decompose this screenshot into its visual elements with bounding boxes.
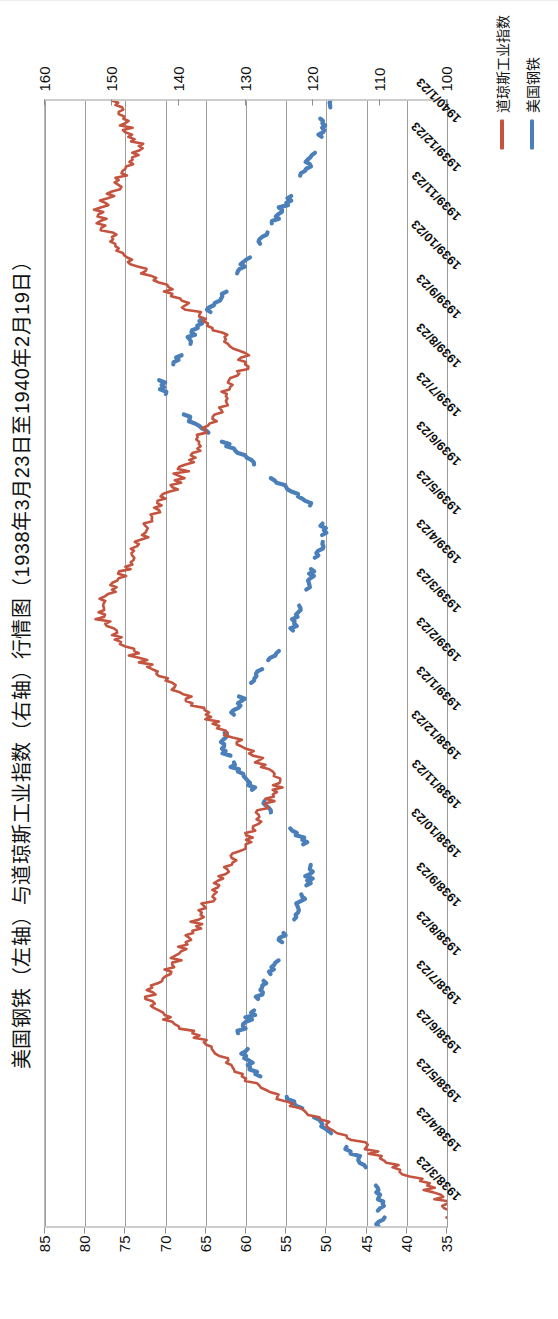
legend-item-us-steel: 美国钢铁 — [522, 14, 542, 149]
series-segment-us-steel-17 — [251, 669, 262, 683]
series-segment-us-steel-31 — [259, 232, 268, 243]
series-segment-us-steel-2 — [345, 1146, 365, 1166]
y-tick-left-85: 85 — [36, 1235, 53, 1252]
series-segment-us-steel-22 — [320, 523, 326, 534]
series-segment-us-steel-19 — [290, 605, 300, 630]
y-tickmark-left-75 — [124, 1227, 125, 1233]
series-segment-us-steel-28 — [188, 318, 203, 343]
series-segment-us-steel-10 — [294, 894, 305, 919]
y-tickmark-left-40 — [406, 1227, 407, 1233]
series-line-dow-jones — [94, 100, 447, 1226]
y-tick-right-140: 140 — [170, 66, 187, 91]
y-tickmark-right-110 — [379, 99, 380, 105]
legend-item-dow-jones: 道琼斯工业指数 — [492, 14, 512, 149]
y-tickmark-right-160 — [44, 99, 45, 105]
series-segment-us-steel-30 — [237, 257, 250, 273]
series-segment-us-steel-24 — [222, 441, 254, 464]
y-tick-right-100: 100 — [438, 66, 455, 91]
series-segment-us-steel-35 — [330, 100, 331, 107]
series-segment-us-steel-26 — [159, 380, 166, 394]
series-segment-us-steel-9 — [279, 933, 286, 942]
y-tick-right-110: 110 — [371, 67, 388, 91]
series-segment-us-steel-14 — [231, 762, 256, 789]
series-segment-us-steel-8 — [269, 960, 279, 974]
series-segment-us-steel-0 — [376, 1217, 384, 1226]
y-tickmark-right-150 — [111, 99, 112, 105]
y-tick-left-75: 75 — [116, 1235, 133, 1252]
series-segment-us-steel-23 — [271, 478, 311, 505]
y-tick-right-160: 160 — [36, 66, 53, 91]
series-segment-us-steel-32 — [272, 196, 292, 223]
y-tickmark-left-50 — [325, 1227, 326, 1233]
series-segment-us-steel-18 — [268, 650, 279, 659]
y-tickmark-left-35 — [446, 1227, 447, 1233]
scanned-page: 美国钢铁（左轴）与道琼斯工业指数（右轴）行情图（1938年3月23日至1940年… — [0, 0, 558, 1319]
y-tickmark-left-80 — [84, 1227, 85, 1233]
series-segment-us-steel-7 — [256, 980, 266, 998]
y-tick-left-35: 35 — [438, 1235, 455, 1252]
series-segment-us-steel-12 — [290, 828, 307, 844]
y-tick-left-40: 40 — [397, 1235, 414, 1252]
y-tick-right-150: 150 — [103, 66, 120, 91]
y-tickmark-right-120 — [312, 99, 313, 105]
series-segment-us-steel-20 — [306, 569, 314, 589]
plot-area — [44, 99, 448, 1227]
chart-legend: 道琼斯工业指数 美国钢铁 — [492, 14, 542, 149]
legend-label-dow-jones: 道琼斯工业指数 — [492, 14, 512, 112]
y-tick-left-60: 60 — [237, 1235, 254, 1252]
y-tick-left-65: 65 — [196, 1235, 213, 1252]
y-tick-left-80: 80 — [76, 1235, 93, 1252]
series-segment-us-steel-33 — [300, 152, 315, 175]
series-segment-us-steel-16 — [231, 696, 245, 714]
y-tick-right-120: 120 — [304, 66, 321, 91]
y-tick-left-50: 50 — [317, 1235, 334, 1252]
series-segment-us-steel-34 — [318, 118, 325, 136]
legend-swatch-dow-jones — [500, 119, 504, 149]
x-axis-dates: 1938/3/231938/4/231938/5/231938/6/231938… — [450, 99, 554, 1227]
series-segment-us-steel-1 — [376, 1185, 384, 1210]
series-layer — [45, 100, 447, 1226]
y-tickmark-left-55 — [285, 1227, 286, 1233]
y-tick-right-130: 130 — [237, 66, 254, 91]
rotated-chart-stage: 美国钢铁（左轴）与道琼斯工业指数（右轴）行情图（1938年3月23日至1940年… — [0, 0, 558, 1319]
y-tickmark-left-45 — [366, 1227, 367, 1233]
y-tickmark-left-85 — [44, 1227, 45, 1233]
y-tickmark-right-130 — [245, 99, 246, 105]
y-tickmark-left-70 — [165, 1227, 166, 1233]
y-tick-left-45: 45 — [357, 1235, 374, 1252]
chart-figure: 美国钢铁（左轴）与道琼斯工业指数（右轴）行情图（1938年3月23日至1940年… — [0, 0, 558, 1319]
y-axis-left-us-steel: 8580757065605550454035 — [44, 1227, 448, 1319]
series-segment-us-steel-27 — [173, 355, 181, 364]
y-tick-left-55: 55 — [277, 1235, 294, 1252]
y-tickmark-left-65 — [205, 1227, 206, 1233]
legend-swatch-us-steel — [530, 119, 534, 149]
series-segment-us-steel-5 — [241, 1049, 260, 1076]
series-segment-us-steel-29 — [207, 291, 227, 311]
series-segment-us-steel-11 — [305, 864, 313, 884]
chart-title: 美国钢铁（左轴）与道琼斯工业指数（右轴）行情图（1938年3月23日至1940年… — [6, 0, 35, 1319]
series-segment-us-steel-21 — [315, 541, 324, 557]
y-tick-left-70: 70 — [156, 1235, 173, 1252]
y-tickmark-right-140 — [178, 99, 179, 105]
y-tickmark-left-60 — [245, 1227, 246, 1233]
legend-label-us-steel: 美国钢铁 — [522, 56, 542, 112]
